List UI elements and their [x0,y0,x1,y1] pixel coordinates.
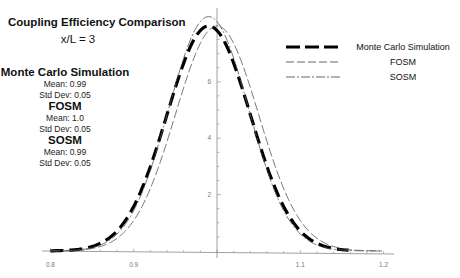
stats-std: Std Dev: 0.05 [0,124,130,135]
x-tick-label: 1.1 [296,261,305,268]
stats-mean: Mean: 0.99 [0,79,130,90]
stats-std: Std Dev: 0.05 [0,158,130,169]
stats-panel: Monte Carlo Simulation Mean: 0.99 Std De… [0,66,130,168]
legend-swatch-thick-dashed-icon [282,41,342,56]
stats-mean: Mean: 1.0 [0,113,130,124]
x-axis [42,251,394,254]
legend-label: SOSM [348,72,458,82]
stats-block-fosm: FOSM Mean: 1.0 Std Dev: 0.05 [0,100,130,134]
y-tick-label: 2 [207,191,211,198]
stats-heading: FOSM [0,100,130,113]
legend: Monte Carlo Simulation FOSM SOSM [282,41,458,86]
legend-item-fosm: FOSM [282,56,458,71]
legend-label: Monte Carlo Simulation [348,42,458,52]
y-tick-label: 6 [207,78,211,85]
stats-block-sosm: SOSM Mean: 0.99 Std Dev: 0.05 [0,134,130,168]
stats-mean: Mean: 0.99 [0,147,130,158]
y-tick-label: 4 [207,134,211,141]
x-tick-label: 1.2 [379,261,388,268]
stats-heading: SOSM [0,134,130,147]
stats-heading: Monte Carlo Simulation [0,66,130,79]
chart-subtitle: x/L = 3 [8,33,148,45]
stats-block-mc: Monte Carlo Simulation Mean: 0.99 Std De… [0,66,130,100]
chart-title: Coupling Efficiency Comparison [8,16,148,28]
x-tick-label: 0.9 [129,261,138,268]
x-tick-label: 0.8 [46,261,55,268]
legend-swatch-dash-dot-icon [282,71,342,86]
stats-std: Std Dev: 0.05 [0,90,130,101]
legend-item-sosm: SOSM [282,71,458,86]
legend-swatch-thin-dashed-icon [282,56,342,71]
legend-label: FOSM [348,57,458,67]
legend-item-mc: Monte Carlo Simulation [282,41,458,56]
